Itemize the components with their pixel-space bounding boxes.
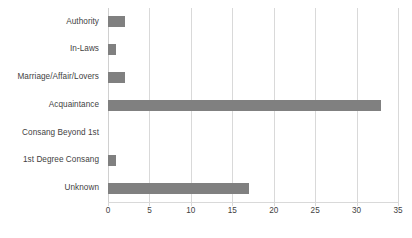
- category-label-cell: In-Laws: [0, 36, 104, 64]
- x-tick-label: 10: [186, 207, 195, 215]
- category-label: Authority: [66, 18, 99, 26]
- gridline: [398, 8, 399, 202]
- x-tick-label: 35: [393, 207, 402, 215]
- bar-row[interactable]: [108, 119, 398, 147]
- category-label-cell: Authority: [0, 8, 104, 36]
- plot-area: [108, 8, 398, 202]
- category-label: Consang Beyond 1st: [22, 129, 99, 137]
- category-label-cell: 1st Degree Consang: [0, 147, 104, 175]
- bar-row[interactable]: [108, 91, 398, 119]
- bar[interactable]: [108, 155, 116, 166]
- x-tick-label: 30: [352, 207, 361, 215]
- x-tick-label: 0: [106, 207, 111, 215]
- x-tick-label: 20: [269, 207, 278, 215]
- bar-row[interactable]: [108, 8, 398, 36]
- category-label: Acquaintance: [49, 101, 99, 109]
- category-label-cell: Marriage/Affair/Lovers: [0, 63, 104, 91]
- category-label: Marriage/Affair/Lovers: [18, 73, 100, 81]
- bar[interactable]: [108, 44, 116, 55]
- category-axis: AuthorityIn-LawsMarriage/Affair/LoversAc…: [0, 8, 104, 202]
- bar[interactable]: [108, 16, 125, 27]
- category-label-cell: Acquaintance: [0, 91, 104, 119]
- bar-chart: AuthorityIn-LawsMarriage/Affair/LoversAc…: [0, 0, 412, 238]
- category-label: Unknown: [65, 184, 99, 192]
- bar-row[interactable]: [108, 174, 398, 202]
- category-label: In-Laws: [70, 45, 99, 53]
- x-axis-tick-labels: 05101520253035: [108, 207, 398, 221]
- x-tick-label: 25: [311, 207, 320, 215]
- bar[interactable]: [108, 100, 381, 111]
- category-label: 1st Degree Consang: [23, 156, 99, 164]
- x-tick-label: 5: [147, 207, 152, 215]
- bar[interactable]: [108, 72, 125, 83]
- bar-row[interactable]: [108, 147, 398, 175]
- bars-layer: [108, 8, 398, 202]
- bar-row[interactable]: [108, 36, 398, 64]
- category-label-cell: Consang Beyond 1st: [0, 119, 104, 147]
- x-tick-label: 15: [228, 207, 237, 215]
- category-label-cell: Unknown: [0, 174, 104, 202]
- bar[interactable]: [108, 183, 249, 194]
- bar-row[interactable]: [108, 63, 398, 91]
